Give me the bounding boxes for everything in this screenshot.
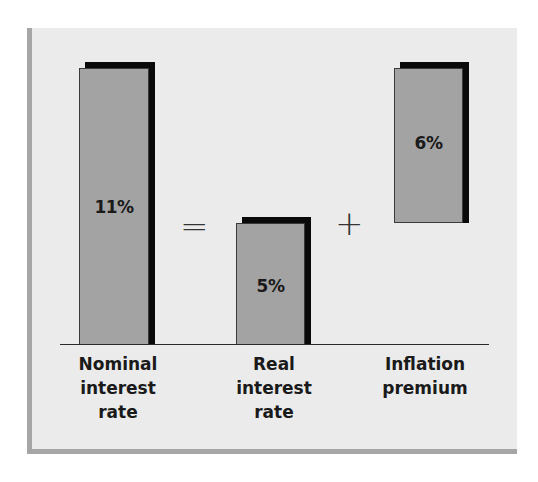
baseline-axis (60, 344, 489, 345)
bar-value-label: 5% (257, 276, 285, 296)
category-label-nominal: Nominal interest rate (58, 352, 178, 424)
plus-sign: + (335, 206, 364, 240)
bar-value-label: 6% (415, 133, 443, 153)
category-label-real: Real interest rate (214, 352, 334, 424)
category-label-inflation: Inflation premium (365, 352, 485, 400)
bar-real-interest-rate: 5% (236, 223, 305, 345)
bar-inflation-premium: 6% (394, 68, 463, 223)
equals-sign: = (180, 209, 209, 243)
bar-value-label: 11% (94, 197, 133, 217)
bar-nominal-interest-rate: 11% (79, 68, 149, 345)
